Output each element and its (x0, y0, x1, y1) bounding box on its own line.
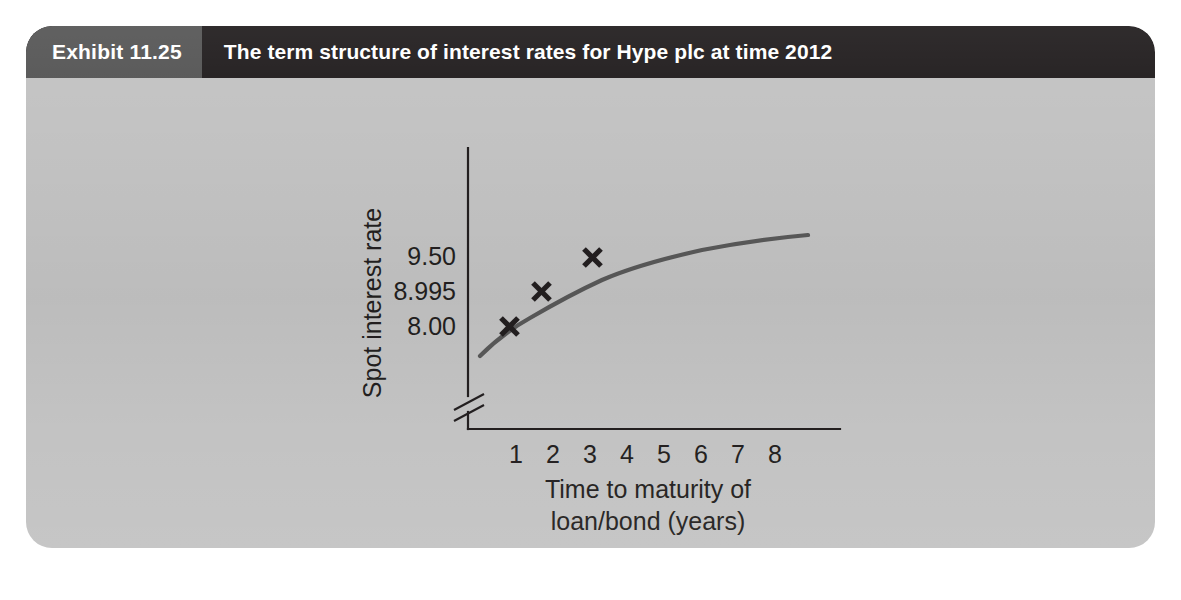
x-tick-label-6: 7 (731, 440, 745, 468)
data-point-marker-3 (584, 249, 601, 266)
exhibit-card: Exhibit 11.25 The term structure of inte… (26, 26, 1155, 548)
x-axis-title-line1: Time to maturity of (545, 475, 751, 503)
x-tick-label-4: 5 (657, 440, 671, 468)
data-point-marker-2 (533, 283, 550, 300)
y-tick-label-2: 8.00 (407, 312, 456, 340)
page-root: Exhibit 11.25 The term structure of inte… (0, 0, 1181, 600)
yield-curve-path (480, 235, 808, 356)
y-tick-label-1: 8.995 (393, 277, 456, 305)
chart-area: 9.50 8.995 8.00 1 2 3 4 5 6 7 8 Time to … (26, 78, 1155, 548)
x-tick-label-3: 4 (620, 440, 634, 468)
y-axis-title: Spot interest rate (358, 208, 386, 398)
exhibit-header: Exhibit 11.25 The term structure of inte… (26, 26, 1155, 78)
y-tick-label-0: 9.50 (407, 242, 456, 270)
x-tick-label-5: 6 (694, 440, 708, 468)
x-tick-label-2: 3 (583, 440, 597, 468)
exhibit-number-badge: Exhibit 11.25 (26, 26, 202, 78)
term-structure-chart: 9.50 8.995 8.00 1 2 3 4 5 6 7 8 Time to … (26, 78, 1155, 548)
x-tick-label-0: 1 (509, 440, 523, 468)
x-axis-title-line2: loan/bond (years) (551, 507, 746, 535)
exhibit-title: The term structure of interest rates for… (202, 26, 1155, 78)
x-tick-label-1: 2 (546, 440, 560, 468)
x-tick-label-7: 8 (768, 440, 782, 468)
